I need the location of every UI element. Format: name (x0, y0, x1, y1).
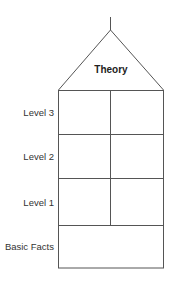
level-label-2: Level 2 (0, 151, 54, 162)
house-diagram (0, 0, 172, 282)
roof-label-theory: Theory (90, 64, 132, 76)
level-label-3: Level 3 (0, 107, 54, 118)
roof (59, 30, 164, 90)
level-label-basic-facts: Basic Facts (0, 241, 54, 252)
level-label-1: Level 1 (0, 197, 54, 208)
